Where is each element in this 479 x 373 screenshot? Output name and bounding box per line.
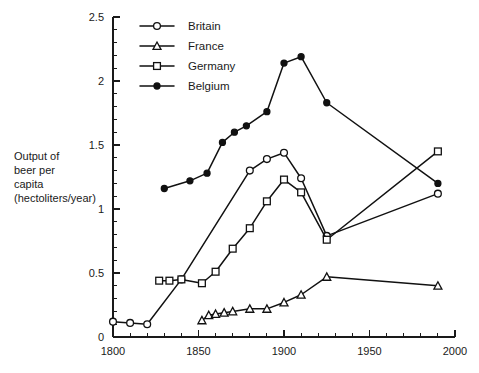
y-axis-title-line: Output of: [14, 150, 60, 162]
series-france: [198, 273, 442, 324]
legend-item-belgium[interactable]: Belgium: [140, 80, 230, 92]
series-britain: [110, 149, 442, 327]
series-line-france: [202, 277, 438, 321]
chart-canvas: 00.511.522.518001850190019502000 Britain…: [0, 0, 479, 373]
data-series: [110, 54, 442, 328]
data-point: [231, 129, 237, 135]
legend-item-britain[interactable]: Britain: [140, 20, 221, 32]
y-tick-label: 0: [98, 331, 104, 343]
data-point: [324, 100, 330, 106]
chart-legend: BritainFranceGermanyBelgium: [140, 20, 236, 92]
x-tick-label: 1850: [186, 345, 210, 357]
data-point: [264, 156, 271, 163]
data-point: [435, 190, 442, 197]
x-tick-label: 1800: [101, 345, 125, 357]
series-line-germany: [159, 151, 438, 283]
data-point: [435, 148, 442, 155]
data-point: [264, 109, 270, 115]
y-tick-label: 2: [98, 75, 104, 87]
legend-label: France: [188, 40, 224, 52]
data-point: [199, 280, 206, 287]
data-point: [219, 139, 225, 145]
x-tick-label: 1950: [357, 345, 381, 357]
beer-output-chart: 00.511.522.518001850190019502000 Britain…: [0, 0, 479, 373]
series-belgium: [161, 54, 441, 192]
y-tick-label: 2.5: [89, 11, 104, 23]
legend-item-france[interactable]: France: [140, 40, 224, 52]
data-point: [144, 321, 151, 328]
legend-label: Belgium: [188, 80, 230, 92]
series-line-belgium: [164, 57, 438, 189]
x-tick-label: 2000: [443, 345, 467, 357]
y-tick-label: 0.5: [89, 267, 104, 279]
data-point: [435, 180, 441, 186]
data-point: [246, 225, 253, 232]
data-point: [243, 123, 249, 129]
data-point: [204, 170, 210, 176]
y-axis-title-line: beer per: [14, 164, 55, 176]
data-point: [323, 236, 330, 243]
data-point: [246, 167, 253, 174]
data-point: [264, 198, 271, 205]
y-axis-title: Output ofbeer percapita(hectoliters/year…: [14, 150, 96, 204]
y-axis-title-line: (hectoliters/year): [14, 192, 96, 204]
data-point: [298, 54, 304, 60]
legend-marker: [154, 63, 161, 70]
x-tick-label: 1900: [272, 345, 296, 357]
data-point: [187, 178, 193, 184]
series-germany: [156, 148, 442, 287]
data-point: [127, 320, 134, 327]
legend-label: Britain: [188, 20, 221, 32]
data-point: [161, 186, 167, 192]
data-point: [298, 189, 305, 196]
data-point: [110, 318, 117, 325]
data-point: [212, 268, 219, 275]
data-point: [297, 291, 305, 298]
data-point: [156, 277, 163, 284]
data-point: [166, 277, 173, 284]
data-point: [178, 276, 185, 283]
data-point: [281, 176, 288, 183]
data-point: [229, 245, 236, 252]
legend-marker: [154, 23, 161, 30]
y-axis-title-line: capita: [14, 178, 44, 190]
data-point: [280, 298, 288, 305]
data-point: [281, 60, 287, 66]
legend-item-germany[interactable]: Germany: [140, 60, 236, 72]
y-tick-label: 1: [98, 203, 104, 215]
y-tick-label: 1.5: [89, 139, 104, 151]
data-point: [281, 149, 288, 156]
legend-marker: [154, 83, 160, 89]
data-point: [298, 175, 305, 182]
series-line-britain: [113, 153, 438, 325]
legend-label: Germany: [188, 60, 236, 72]
